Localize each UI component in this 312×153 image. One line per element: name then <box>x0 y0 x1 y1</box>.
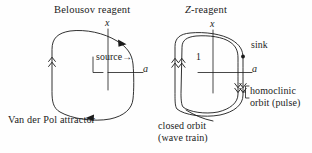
level-one-label: 1 <box>196 52 201 62</box>
sink-label: sink <box>251 40 268 50</box>
homoclinic-orbit-path <box>175 33 243 117</box>
right-left-flow-arrowheads <box>172 58 185 67</box>
right-panel-title-rest: -reagent <box>191 4 227 15</box>
source-label: source→ <box>96 52 132 62</box>
closed-orbit-label-line1: closed orbit <box>158 120 208 132</box>
closed-orbit-path <box>181 36 238 113</box>
van-der-pol-caption: Van der Pol attractor <box>8 115 95 126</box>
vdp-top-flow-arrowhead <box>118 40 127 47</box>
source-label-text: source <box>96 51 122 62</box>
phase-portrait-figure: Belousov reagent x source→ a Van der Pol… <box>0 0 312 153</box>
source-arrow-icon: → <box>122 51 132 62</box>
left-x-axis-label: x <box>105 18 109 29</box>
homoclinic-orbit-label-line2: orbit (pulse) <box>250 97 300 109</box>
right-panel-title: Z-reagent <box>185 4 227 15</box>
right-x-axis-label: x <box>210 19 214 30</box>
diagram-artwork <box>0 0 312 153</box>
sink-point-marker <box>241 55 245 59</box>
right-right-flow-arrowheads <box>235 84 246 93</box>
closed-orbit-label: closed orbit (wave train) <box>158 120 208 144</box>
left-a-axis-label: a <box>143 64 148 75</box>
right-a-axis-label: a <box>252 64 257 75</box>
closed-orbit-label-line2: (wave train) <box>158 132 208 144</box>
homoclinic-orbit-label: homoclinic orbit (pulse) <box>250 85 300 109</box>
homoclinic-label-bracket <box>244 86 250 98</box>
left-panel-title: Belousov reagent <box>54 4 130 15</box>
homoclinic-orbit-label-line1: homoclinic <box>250 85 300 97</box>
